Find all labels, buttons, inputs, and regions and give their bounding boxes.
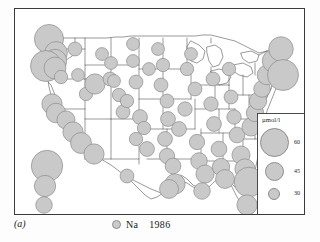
figure-caption: Na 1986: [112, 219, 170, 230]
data-point-circle: [120, 94, 133, 107]
legend-circle-45: [265, 162, 284, 181]
data-point-circle: [84, 144, 104, 164]
data-point-circle: [36, 197, 53, 214]
data-point-circle: [206, 72, 220, 86]
data-point-circle: [143, 63, 156, 76]
data-point-circle: [54, 70, 67, 83]
legend-value-30: 30: [294, 190, 300, 196]
data-point-circle: [178, 102, 192, 116]
data-point-circle: [172, 122, 187, 137]
data-point-circle: [165, 158, 181, 174]
legend: µmol/l 604530: [257, 113, 305, 215]
data-point-circle: [227, 110, 241, 124]
data-point-circle: [140, 142, 155, 157]
data-point-circle: [108, 75, 121, 88]
data-point-circle: [127, 55, 140, 68]
data-point-circle: [269, 37, 294, 62]
data-point-circle: [185, 48, 198, 61]
data-point-circle: [211, 141, 227, 157]
data-point-circle: [137, 121, 150, 134]
legend-circle-60: [260, 128, 289, 157]
data-point-circle: [188, 82, 202, 96]
legend-title: µmol/l: [262, 116, 280, 123]
data-point-circle: [237, 195, 257, 214]
data-point-circle: [194, 183, 211, 200]
data-point-circle: [160, 94, 174, 108]
data-point-circle: [268, 60, 299, 91]
circle-marker-icon: [112, 220, 121, 229]
data-point-circle: [196, 165, 214, 183]
data-point-circle: [160, 180, 179, 199]
data-point-circle: [224, 90, 238, 104]
data-point-circle: [189, 134, 204, 149]
data-point-circle: [120, 169, 134, 183]
data-point-circle: [207, 117, 222, 132]
data-point-circle: [68, 42, 82, 56]
legend-value-60: 60: [294, 139, 300, 145]
figure-panel: µmol/l 604530 (a) Na 1986: [0, 0, 320, 242]
data-point-circle: [105, 57, 118, 70]
data-point-circle: [204, 97, 218, 111]
data-point-circle: [180, 62, 193, 75]
data-point-circle: [72, 69, 85, 82]
data-point-circle: [158, 132, 173, 147]
legend-value-45: 45: [294, 168, 300, 174]
legend-circle-30: [268, 188, 280, 200]
data-point-circle: [85, 74, 105, 94]
data-point-circle: [152, 43, 165, 56]
data-point-circle: [222, 62, 235, 75]
data-point-circle: [129, 75, 143, 89]
caption-year-label: 1986: [149, 219, 170, 230]
data-point-circle: [154, 78, 168, 92]
data-point-circle: [127, 38, 140, 51]
data-point-circle: [129, 132, 142, 145]
caption-variable-label: Na: [126, 219, 138, 230]
map-frame: µmol/l 604530: [14, 8, 305, 215]
data-point-circle: [156, 58, 169, 71]
data-point-circle: [34, 175, 55, 196]
panel-label: (a): [14, 218, 26, 229]
data-point-circle: [216, 170, 235, 189]
